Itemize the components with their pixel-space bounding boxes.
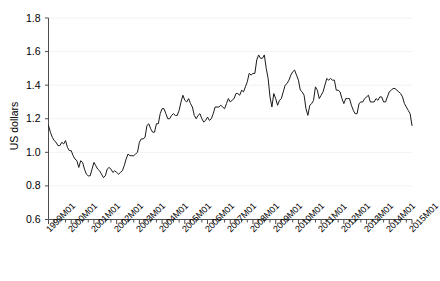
y-tick-label: 0.8 bbox=[15, 180, 41, 190]
y-axis-ticks bbox=[45, 18, 49, 220]
y-tick-label: 1.0 bbox=[15, 147, 41, 157]
y-tick-label: 1.8 bbox=[15, 13, 41, 23]
data-series-line bbox=[49, 55, 413, 178]
y-tick-label: 1.2 bbox=[15, 113, 41, 123]
y-tick-label: 1.6 bbox=[15, 46, 41, 56]
y-tick-label: 1.4 bbox=[15, 80, 41, 90]
y-tick-label: 0.6 bbox=[15, 214, 41, 224]
